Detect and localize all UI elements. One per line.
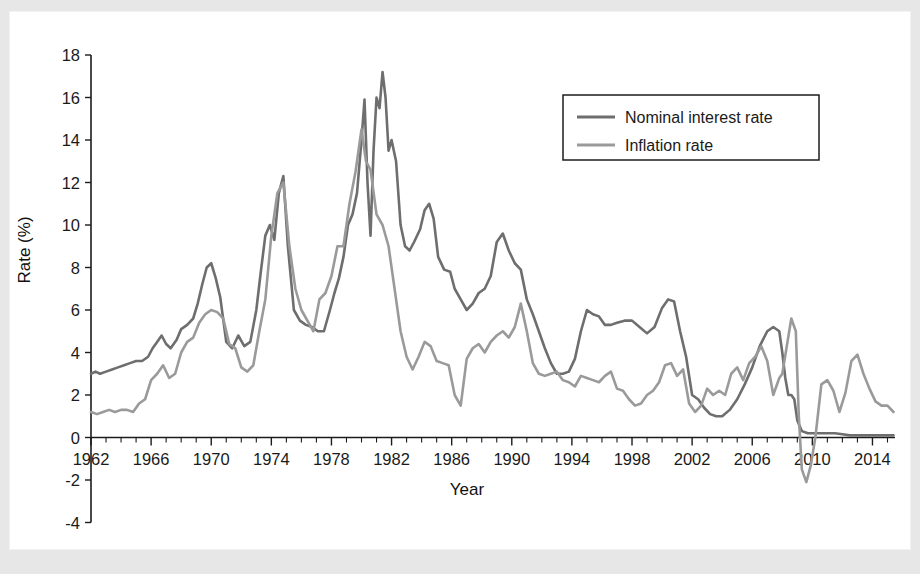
y-axis-tick-label: 6 <box>71 301 80 319</box>
x-axis-tick-label: 1982 <box>373 450 410 468</box>
x-axis-tick-label: 1998 <box>614 450 651 468</box>
x-axis-tick-label: 2006 <box>734 450 771 468</box>
legend-label-1: Inflation rate <box>625 137 713 154</box>
y-axis-tick-label: 12 <box>62 174 80 192</box>
y-axis-tick-label: 10 <box>62 216 80 234</box>
y-axis-tick-label: 0 <box>71 429 80 447</box>
y-axis-tick-label: 14 <box>62 131 80 149</box>
series-line-inflation-rate <box>91 129 894 482</box>
rate-chart-figure: -4-2024681012141618196219661970197419781… <box>0 0 920 574</box>
x-axis-tick-label: 2014 <box>854 450 891 468</box>
page-background: -4-2024681012141618196219661970197419781… <box>0 0 920 574</box>
y-axis-tick-label: 4 <box>71 344 80 362</box>
x-axis-tick-label: 1974 <box>253 450 290 468</box>
x-axis-tick-label: 1986 <box>433 450 470 468</box>
y-axis-tick-label: -2 <box>65 471 80 489</box>
x-axis-tick-label: 1994 <box>554 450 591 468</box>
x-axis-tick-label: 1970 <box>193 450 230 468</box>
y-axis-tick-label: 2 <box>71 386 80 404</box>
legend-label-0: Nominal interest rate <box>625 109 773 126</box>
x-axis-tick-label: 2002 <box>674 450 711 468</box>
x-axis-tick-label: 1962 <box>73 450 110 468</box>
x-axis-tick-label: 1990 <box>493 450 530 468</box>
x-axis-tick-label: 1978 <box>313 450 350 468</box>
y-axis-title: Rate (%) <box>15 216 34 283</box>
y-axis-tick-label: 16 <box>62 89 80 107</box>
x-axis-title: Year <box>450 480 485 499</box>
y-axis-tick-label: -4 <box>65 514 80 532</box>
y-axis-tick-label: 8 <box>71 259 80 277</box>
y-axis-tick-label: 18 <box>62 46 80 64</box>
x-axis-tick-label: 1966 <box>133 450 170 468</box>
